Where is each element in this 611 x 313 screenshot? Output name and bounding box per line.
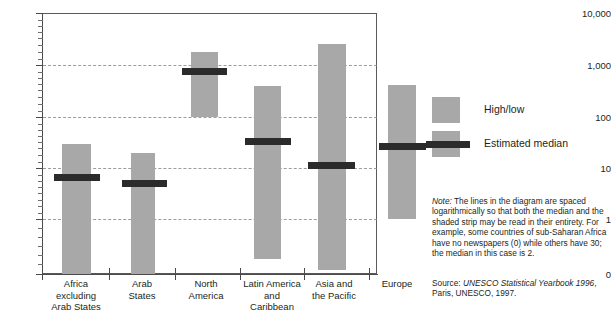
y-minor-tick xyxy=(38,246,43,247)
y-minor-tick xyxy=(38,72,43,73)
y-minor-tick xyxy=(38,148,43,149)
x-category-label-africa-excluding-arab-states: Africa excluding Arab States xyxy=(36,278,116,313)
chart-container: 10,000 1,000 100 10 1 0 xyxy=(0,0,611,313)
x-axis-line xyxy=(42,274,378,275)
y-tick-mark-10 xyxy=(36,168,43,169)
note-body-text: The lines in the diagram are spaced loga… xyxy=(432,196,606,258)
bar-range-asia-and-the-pacific[interactable] xyxy=(318,44,346,270)
y-tick-mark-100 xyxy=(36,117,43,118)
y-minor-tick xyxy=(38,97,43,98)
bar-range-latin-america-and-caribbean[interactable] xyxy=(254,86,281,259)
y-minor-tick xyxy=(38,90,43,91)
chart-note: Note: The lines in the diagram are space… xyxy=(432,196,608,258)
median-marker-europe[interactable] xyxy=(379,143,426,150)
median-marker-asia-and-the-pacific[interactable] xyxy=(308,162,355,169)
y-minor-tick xyxy=(38,200,43,201)
chart-source: Source: UNESCO Statistical Yearbook 1996… xyxy=(432,278,608,299)
y-minor-tick xyxy=(38,264,43,265)
legend-swatch-high-low xyxy=(432,97,460,123)
y-minor-tick xyxy=(38,206,43,207)
x-category-label-line: Caribbean xyxy=(228,301,316,313)
chart-legend: High/low Estimated median xyxy=(432,95,607,163)
legend-item-high-low[interactable]: High/low xyxy=(432,95,607,129)
bar-range-arab-states[interactable] xyxy=(131,153,155,274)
y-minor-tick xyxy=(38,124,43,125)
y-minor-tick xyxy=(38,237,43,238)
legend-label-estimated-median: Estimated median xyxy=(484,137,568,149)
y-tick-mark-1 xyxy=(36,219,43,220)
y-minor-tick xyxy=(38,228,43,229)
median-marker-latin-america-and-caribbean[interactable] xyxy=(245,138,291,145)
x-category-label-line: Asia and xyxy=(296,278,372,290)
y-minor-tick xyxy=(38,38,43,39)
y-minor-tick xyxy=(38,111,43,112)
legend-item-estimated-median[interactable]: Estimated median xyxy=(432,129,607,163)
y-tick-mark-10000 xyxy=(36,13,43,14)
y-minor-tick xyxy=(38,52,43,53)
y-minor-tick xyxy=(38,162,43,163)
y-minor-tick xyxy=(38,20,43,21)
y-minor-tick xyxy=(38,187,43,188)
y-minor-tick xyxy=(38,181,43,182)
bar-range-africa-excluding-arab-states[interactable] xyxy=(62,144,91,274)
y-minor-tick xyxy=(38,26,43,27)
median-marker-africa-excluding-arab-states[interactable] xyxy=(54,174,100,181)
y-minor-tick xyxy=(38,175,43,176)
y-minor-tick xyxy=(38,104,43,105)
x-category-label-line: Arab xyxy=(106,278,178,290)
x-category-label-line: Arab States xyxy=(36,301,116,313)
median-marker-north-america[interactable] xyxy=(182,68,227,75)
x-category-label-arab-states: Arab States xyxy=(106,278,178,301)
source-title-text: UNESCO Statistical Yearbook 1996 xyxy=(463,278,594,288)
note-lead-label: Note: xyxy=(432,196,452,206)
y-minor-tick xyxy=(38,130,43,131)
y-tick-label-10: 10 xyxy=(573,164,611,174)
x-category-label-line: the Pacific xyxy=(296,290,372,302)
y-minor-tick xyxy=(38,59,43,60)
y-minor-tick xyxy=(38,84,43,85)
y-minor-tick xyxy=(38,32,43,33)
x-category-label-asia-and-the-pacific: Asia and the Pacific xyxy=(296,278,372,301)
y-minor-tick xyxy=(38,255,43,256)
y-minor-tick xyxy=(38,78,43,79)
x-category-label-line: Europe xyxy=(366,278,428,290)
bar-range-north-america[interactable] xyxy=(191,52,218,117)
source-lead-label: Source: xyxy=(432,278,463,288)
y-minor-tick xyxy=(38,45,43,46)
y-minor-tick xyxy=(38,136,43,137)
legend-median-bar-icon xyxy=(426,141,470,148)
y-tick-label-10000: 10,000 xyxy=(573,9,611,19)
y-minor-tick xyxy=(38,193,43,194)
y-minor-tick xyxy=(38,155,43,156)
y-minor-tick xyxy=(38,142,43,143)
median-marker-arab-states[interactable] xyxy=(122,180,167,187)
y-tick-label-1000: 1,000 xyxy=(573,61,611,71)
x-category-label-line: Africa xyxy=(36,278,116,290)
x-category-label-europe: Europe xyxy=(366,278,428,290)
x-category-label-line: States xyxy=(106,290,178,302)
legend-label-high-low: High/low xyxy=(484,103,524,115)
y-tick-mark-1000 xyxy=(36,65,43,66)
bar-range-europe[interactable] xyxy=(388,85,416,219)
y-minor-tick xyxy=(38,213,43,214)
x-category-label-line: excluding xyxy=(36,290,116,302)
